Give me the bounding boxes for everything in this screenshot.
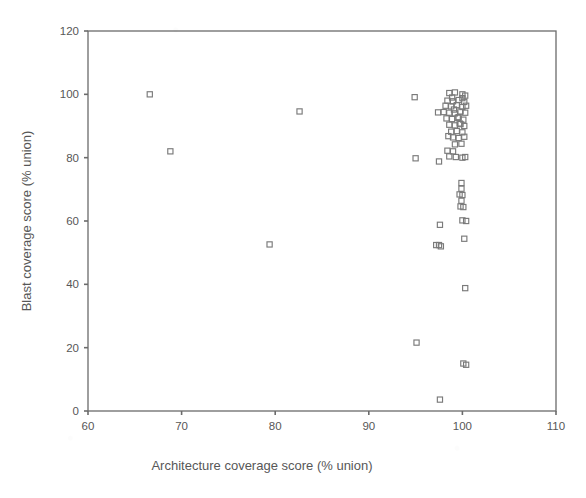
data-point-marker: [447, 154, 452, 159]
data-point-marker: [452, 142, 457, 147]
x-axis-title: Architecture coverage score (% union): [151, 458, 372, 473]
x-tick-label: 100: [453, 420, 472, 432]
data-point-marker: [414, 340, 419, 345]
x-axis-group: 60708090100110: [82, 411, 566, 432]
data-point-marker: [454, 128, 459, 133]
data-point-marker: [463, 286, 468, 291]
x-tick-label: 110: [547, 420, 565, 432]
data-point-marker: [444, 116, 449, 121]
data-point-marker: [147, 92, 152, 97]
data-point-marker: [443, 103, 448, 108]
y-axis-group: 020406080100120: [60, 25, 88, 417]
y-axis-title: Blast coverage score (% union): [19, 131, 34, 312]
scatter-plot-figure: 60708090100110020406080100120Architectur…: [0, 0, 586, 498]
data-point-marker: [441, 109, 446, 114]
data-point-marker: [445, 148, 450, 153]
data-point-marker: [459, 186, 464, 191]
x-tick-label: 60: [82, 420, 95, 432]
y-tick-label: 40: [66, 278, 79, 290]
data-point-marker: [456, 135, 461, 140]
data-point-marker: [459, 141, 464, 146]
x-tick-label: 80: [269, 420, 282, 432]
data-point-marker: [459, 180, 464, 185]
data-point-marker: [413, 156, 418, 161]
chart-canvas: 60708090100110020406080100120Architectur…: [0, 0, 586, 498]
x-tick-label: 70: [175, 420, 188, 432]
x-tick-label: 90: [362, 420, 375, 432]
y-tick-label: 20: [66, 342, 79, 354]
y-tick-label: 80: [66, 152, 79, 164]
data-point-marker: [435, 110, 440, 115]
plot-frame: [88, 31, 556, 411]
data-point-marker: [450, 149, 455, 154]
data-point-marker: [412, 95, 417, 100]
y-tick-label: 100: [60, 88, 79, 100]
data-point-marker: [437, 397, 442, 402]
data-point-marker: [452, 90, 457, 95]
data-point-marker: [168, 149, 173, 154]
data-point-marker: [437, 222, 442, 227]
data-point-marker: [459, 198, 464, 203]
y-tick-label: 60: [66, 215, 79, 227]
data-point-marker: [297, 109, 302, 114]
data-point-marker: [436, 159, 441, 164]
data-point-marker: [267, 242, 272, 247]
data-point-marker: [456, 97, 461, 102]
data-point-marker: [453, 154, 458, 159]
plot-frame-group: [88, 31, 556, 411]
data-point-marker: [447, 122, 452, 127]
data-point-marker: [462, 99, 467, 104]
data-points-group: [147, 90, 469, 402]
data-point-marker: [450, 116, 455, 121]
data-point-marker: [462, 236, 467, 241]
y-tick-label: 120: [60, 25, 79, 37]
y-tick-label: 0: [73, 405, 79, 417]
